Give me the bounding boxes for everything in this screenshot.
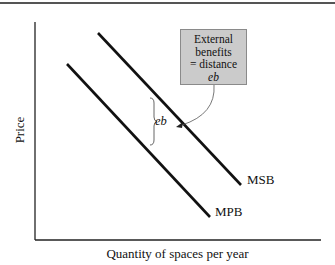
callout-line-1: External — [181, 33, 246, 46]
arrowhead-icon — [176, 122, 183, 128]
y-axis-label: Price — [12, 110, 28, 150]
external-benefits-callout: External benefits = distance eb — [180, 29, 247, 85]
mpb-label: MPB — [215, 204, 242, 220]
callout-line-3: = distance — [181, 58, 246, 71]
x-axis-label: Quantity of spaces per year — [35, 246, 320, 262]
brace-label: eb — [155, 114, 167, 129]
callout-line-4: eb — [181, 71, 246, 84]
callout-connector — [182, 85, 214, 125]
diagram-canvas — [0, 0, 335, 265]
mpb-curve — [67, 64, 210, 217]
callout-line-2: benefits — [181, 46, 246, 59]
msb-label: MSB — [247, 172, 274, 188]
